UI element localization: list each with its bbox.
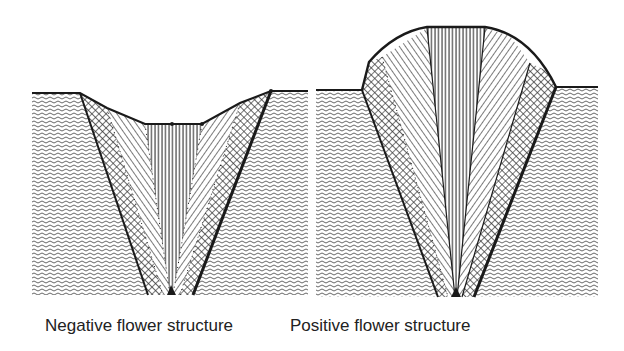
negative-flower-panel (32, 89, 308, 295)
flower-structure-diagram (0, 0, 624, 351)
caption-positive: Positive flower structure (290, 316, 470, 336)
positive-flower-panel (316, 27, 598, 297)
caption-negative: Negative flower structure (45, 316, 233, 336)
